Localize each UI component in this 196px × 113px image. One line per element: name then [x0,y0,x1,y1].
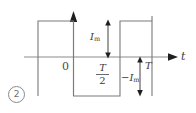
positive-amplitude-dimension [105,20,111,59]
half-period-denominator: 2 [96,76,109,87]
negative-amplitude-arrow-down [137,90,143,97]
figure-index-badge: 2 [8,86,25,103]
waveform-figure: 0 t Im −Im T 2 T 2 [0,0,196,113]
current-axis-arrowhead [70,11,77,22]
positive-amplitude-label: Im [90,32,100,43]
positive-amplitude-subscript: m [94,35,100,43]
period-label: T [145,61,152,71]
negative-amplitude-label: −Im [121,73,140,84]
negative-amplitude-subscript: m [133,76,139,84]
waveform-drawing [0,0,196,113]
positive-amplitude-arrow-up [105,20,111,26]
time-axis-arrowhead [168,53,178,61]
positive-amplitude-arrow-down [105,53,111,59]
origin-label: 0 [62,61,69,72]
time-axis-label: t [181,51,185,62]
half-period-label: T 2 [96,63,109,86]
half-period-numerator: T [96,63,109,74]
time-axis [24,53,178,61]
